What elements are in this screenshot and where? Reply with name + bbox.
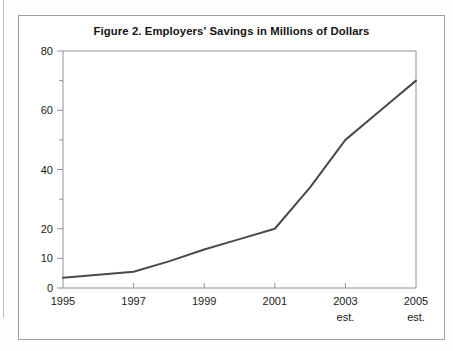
- y-axis-tick-label: 20: [41, 223, 53, 235]
- page-edge-rule: [3, 0, 4, 318]
- x-axis-tick-label: 1999: [192, 295, 216, 307]
- x-axis-tick-label: 1997: [121, 295, 145, 307]
- y-axis-tick-label: 10: [41, 252, 53, 264]
- x-axis-tick-label: 1995: [51, 295, 75, 307]
- y-axis-tick-label: 40: [41, 164, 53, 176]
- x-axis-tick-sublabel: est.: [337, 311, 355, 323]
- page-canvas: Figure 2. Employers' Savings in Millions…: [0, 0, 453, 351]
- x-axis-tick-label: 2003: [333, 295, 357, 307]
- y-axis-tick-label: 0: [47, 282, 53, 294]
- figure-container: Figure 2. Employers' Savings in Millions…: [18, 15, 445, 340]
- line-chart-svg: 8060402010019951997199920012003est.2005e…: [19, 16, 446, 341]
- y-axis-tick-label: 80: [41, 45, 53, 57]
- data-series-line: [63, 81, 416, 278]
- x-axis-tick-sublabel: est.: [407, 311, 425, 323]
- chart-plot-area: 8060402010019951997199920012003est.2005e…: [19, 16, 446, 341]
- x-axis-tick-label: 2005: [404, 295, 428, 307]
- x-axis-tick-label: 2001: [263, 295, 287, 307]
- y-axis-tick-label: 60: [41, 104, 53, 116]
